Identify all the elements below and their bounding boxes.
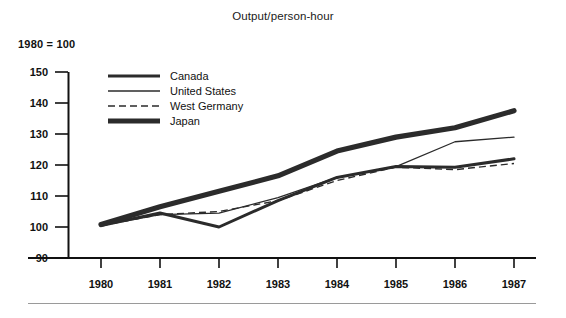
series-line-united-states bbox=[101, 137, 514, 225]
legend-label-canada: Canada bbox=[170, 70, 209, 82]
footer-divider bbox=[28, 303, 536, 304]
x-tick-label-1981: 1981 bbox=[148, 278, 172, 290]
chart-figure: Output/person-hour 1980 = 100 150 140 13… bbox=[0, 0, 566, 318]
series-lines bbox=[101, 111, 514, 227]
x-tick-label-1982: 1982 bbox=[207, 278, 231, 290]
y-tick-label-150: 150 bbox=[30, 66, 48, 78]
legend-label-japan: Japan bbox=[170, 115, 200, 127]
x-tick-label-1986: 1986 bbox=[443, 278, 467, 290]
y-tick-label-110: 110 bbox=[30, 190, 48, 202]
x-tick-label-1987: 1987 bbox=[502, 278, 526, 290]
y-tick-label-120: 120 bbox=[30, 159, 48, 171]
x-axis-ticks bbox=[101, 258, 514, 268]
x-tick-label-1984: 1984 bbox=[325, 278, 350, 290]
legend-label-west-germany: West Germany bbox=[170, 100, 244, 112]
y-tick-label-130: 130 bbox=[30, 128, 48, 140]
x-tick-label-1985: 1985 bbox=[384, 278, 408, 290]
x-tick-label-1983: 1983 bbox=[266, 278, 290, 290]
legend-label-united-states: United States bbox=[170, 85, 237, 97]
y-tick-label-140: 140 bbox=[30, 97, 48, 109]
y-axis-ticks bbox=[55, 72, 68, 258]
chart-legend: Canada United States West Germany Japan bbox=[108, 70, 244, 127]
series-line-west-germany bbox=[101, 163, 514, 225]
plot-area: 150 140 130 120 110 100 90 1980 1981 198… bbox=[0, 0, 566, 318]
y-tick-label-100: 100 bbox=[30, 221, 48, 233]
x-tick-label-1980: 1980 bbox=[89, 278, 113, 290]
y-tick-label-90: 90 bbox=[36, 252, 48, 264]
